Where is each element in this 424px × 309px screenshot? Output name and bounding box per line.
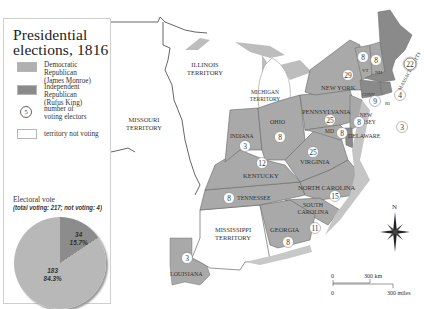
electors-georgia: 8 bbox=[286, 238, 290, 247]
electors-indiana: 3 bbox=[243, 142, 247, 151]
north-label: N bbox=[392, 203, 397, 211]
electors-pennsylvania: 25 bbox=[326, 116, 334, 125]
legend-democratic-republican: Democratic Republican(James Monroe) bbox=[44, 61, 110, 85]
label-ohio: OHIO bbox=[270, 119, 286, 125]
legend-independent-republican: Independent Republican(Rufus King) bbox=[44, 83, 110, 107]
swatch-democratic-republican bbox=[17, 62, 37, 72]
scale-bar: 0 300 km 0 300 miles bbox=[331, 273, 411, 296]
svg-text:300 km: 300 km bbox=[364, 273, 383, 279]
electoral-vote-pie-chart bbox=[14, 217, 106, 309]
label-tennessee: TENNESSEE bbox=[237, 195, 271, 201]
label-new-hampshire: NH bbox=[375, 70, 383, 75]
missouri-territory-outline bbox=[111, 17, 207, 195]
label-louisiana: LOUISIANA bbox=[170, 271, 203, 277]
electors-south-carolina: 11 bbox=[311, 224, 318, 233]
compass-rose: N bbox=[380, 203, 410, 252]
electors-massachusetts: 22 bbox=[406, 60, 414, 69]
legend-territory-not-voting: territory not voting bbox=[44, 130, 99, 138]
legend-voting-electors: number ofvoting electors bbox=[44, 105, 87, 121]
label-delaware: DELAWARE bbox=[348, 133, 381, 139]
electors-tennessee: 8 bbox=[227, 194, 231, 203]
state-rhode-island[interactable] bbox=[380, 82, 392, 95]
label-kentucky: KENTUCKY bbox=[243, 172, 279, 179]
label-pennsylvania: PENNSYLVANIA bbox=[302, 108, 351, 115]
elector-symbol-icon: 5 bbox=[20, 106, 32, 118]
label-north-carolina: NORTH CAROLINA bbox=[298, 184, 356, 191]
electors-rhode-island: 4 bbox=[398, 91, 402, 100]
electors-virginia: 25 bbox=[309, 148, 317, 157]
electors-new-hampshire: 8 bbox=[374, 56, 378, 65]
label-georgia: GEORGIA bbox=[270, 226, 300, 233]
swatch-independent-republican bbox=[17, 85, 37, 95]
label-michigan-territory: MICHIGANTERRITORY bbox=[250, 89, 280, 102]
label-indiana: INDIANA bbox=[230, 133, 254, 139]
label-virginia: VIRGINIA bbox=[300, 158, 330, 165]
electors-louisiana: 3 bbox=[185, 254, 189, 263]
electors-maryland: 8 bbox=[340, 129, 344, 138]
label-missouri-territory: MISSOURITERRITORY bbox=[126, 116, 162, 131]
legend-panel: Presidential elections, 1816 Democratic … bbox=[3, 18, 111, 304]
label-illinois-territory: ILLINOISTERRITORY bbox=[187, 61, 223, 76]
svg-text:300 miles: 300 miles bbox=[387, 290, 411, 296]
label-mississippi-territory: MISSISSIPPITERRITORY bbox=[215, 226, 251, 241]
swatch-territory-not-voting bbox=[17, 129, 37, 139]
pie-label-king: 3415.7% bbox=[70, 231, 88, 247]
electors-ohio: 8 bbox=[278, 133, 282, 142]
svg-text:0: 0 bbox=[331, 290, 334, 296]
electors-north-carolina: 15 bbox=[331, 192, 339, 201]
pie-label-monroe: 18384.3% bbox=[44, 267, 62, 283]
electors-new-jersey: 8 bbox=[357, 118, 361, 127]
svg-text:0: 0 bbox=[331, 273, 334, 279]
electoral-vote-subtitle: (total voting: 217; not voting: 4) bbox=[13, 204, 102, 211]
electors-vermont: 8 bbox=[361, 53, 365, 62]
label-maryland: MD bbox=[325, 128, 334, 134]
label-rhode-island: RI bbox=[385, 101, 390, 106]
label-vermont: VT bbox=[362, 68, 369, 73]
electors-new-york: 29 bbox=[344, 71, 352, 80]
electors-kentucky: 12 bbox=[258, 159, 266, 168]
electoral-vote-title: Electoral vote bbox=[13, 195, 55, 204]
label-new-york: NEW YORK bbox=[321, 84, 356, 91]
legend-title: Presidential elections, 1816 bbox=[13, 27, 108, 57]
electors-delaware: 3 bbox=[400, 123, 404, 132]
electors-connecticut: 9 bbox=[373, 97, 377, 106]
